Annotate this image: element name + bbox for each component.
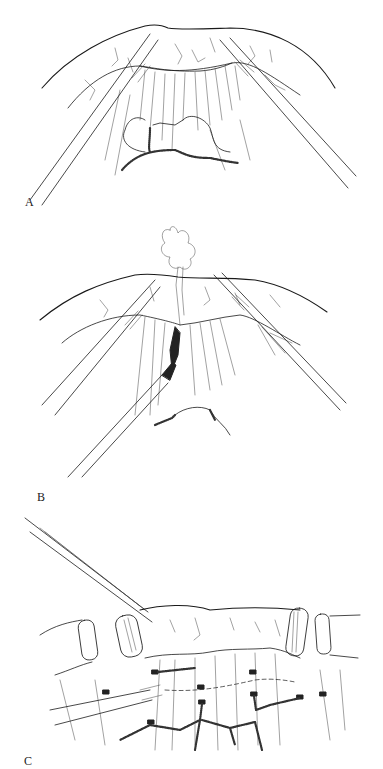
panel-a-label: A <box>25 195 34 210</box>
panel-b: B <box>0 215 383 510</box>
panel-b-illustration <box>0 215 383 510</box>
panel-c-label: C <box>24 754 32 769</box>
panel-a: A <box>0 0 383 215</box>
panel-b-label: B <box>37 490 45 505</box>
panel-a-illustration <box>0 0 383 215</box>
panel-c: C <box>0 510 383 769</box>
panel-c-illustration <box>0 510 383 769</box>
